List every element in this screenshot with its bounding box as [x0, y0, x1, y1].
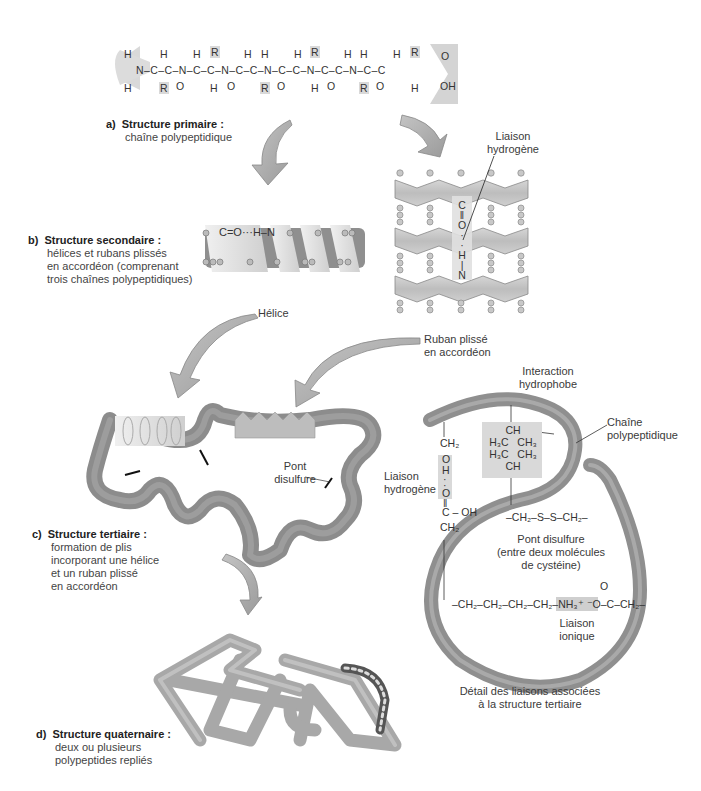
residue-3-carbonyl: O	[277, 80, 285, 92]
section-c-desc: formation de plis incorporant une hélice…	[32, 541, 159, 593]
residue-5-bottom: R	[359, 82, 369, 94]
section-a-title: Structure primaire :	[122, 118, 224, 131]
sheet-bond-n: N	[454, 270, 470, 280]
residue-3-amide-h: H	[294, 48, 302, 60]
residue-1-carbonyl: O	[176, 80, 184, 92]
arrow-sheet-to-tertiary	[295, 338, 420, 407]
residue-5-amide-h: H	[393, 48, 401, 60]
section-b-letter: b)	[28, 234, 38, 247]
ionic-formula: –CH₂–CH₂–CH₂–CH₂–NH₃⁺ ⁻O–C–CH₂–	[452, 598, 645, 610]
polypeptide-chain-label: Chaîne polypeptidique	[607, 416, 678, 442]
detail-caption: Détail des liaisons associées à la struc…	[455, 685, 605, 711]
residue-1-amide-h: H	[193, 48, 201, 60]
residue-2-top: R	[210, 46, 220, 58]
hbond-ch2-bottom: CH₂	[440, 522, 477, 533]
section-a-letter: a)	[106, 118, 116, 131]
amino-terminus: H	[124, 48, 132, 60]
section-d-title: Structure quaternaire :	[52, 728, 171, 741]
section-d-desc: deux ou plusieurs polypeptides repliés	[36, 741, 171, 767]
residue-6-top: R	[410, 46, 420, 58]
hydrophobic-group: CH H₃C CH₃ H₃C CH₃ CH	[484, 424, 542, 472]
sheet-arrow-label: Ruban plissé en accordéon	[424, 333, 491, 359]
hydrophobic-ch-bottom: CH	[484, 460, 542, 472]
ionic-formula-left: –CH₂–CH₂–CH₂–CH₂–	[452, 598, 558, 610]
disulfide-bridge-label: Pont disulfure	[270, 460, 320, 486]
detail-hbond-chain: CH₂ O H · · O ‖ C – OH CH₂	[440, 438, 477, 533]
residue-1-top: H	[160, 48, 168, 60]
helix-hbond-formula: C=O···H–N	[219, 226, 275, 238]
residue-3-top: H	[261, 48, 269, 60]
ionic-formula-mid: NH₃⁺ ⁻O	[558, 598, 601, 610]
hbond-ch2-top: CH₂	[440, 438, 477, 449]
ionic-bond-label: Liaison ionique	[552, 617, 602, 643]
section-c-letter: c)	[32, 528, 42, 541]
sheet-hbond-formula: C ‖ O · · H | N	[454, 200, 470, 280]
section-a-primary: a)Structure primaire : chaîne polypeptid…	[106, 118, 232, 144]
detail-hbond-label: Liaison hydrogène	[384, 470, 436, 496]
section-c-tertiary: c)Structure tertiaire : formation de pli…	[32, 528, 159, 593]
residue-5-carbonyl: O	[376, 80, 384, 92]
amino-h-bottom: H	[124, 82, 132, 94]
residue-2-amide-h: H	[244, 48, 252, 60]
arrow-primary-to-sheet	[400, 115, 447, 157]
residue-4-bottom: H	[311, 82, 319, 94]
residue-2-bottom: H	[210, 82, 218, 94]
disulfide-caption: Pont disulfure (entre deux molécules de …	[496, 533, 606, 572]
sheet-hbond-label: Liaison hydrogène	[478, 130, 548, 156]
hydrophobic-methyls-bottom: H₃C CH₃	[484, 448, 542, 460]
amino-h-top: H	[124, 48, 132, 60]
ionic-formula-right: –C–CH₂–	[601, 598, 645, 610]
section-b-secondary: b)Structure secondaire : hélices et ruba…	[28, 234, 193, 286]
primary-backbone: N–C–C–N–C–C–N–C–C–N–C–C–N–C–C–N–C–C	[136, 64, 386, 76]
hydrophobic-ch-top: CH	[484, 424, 542, 436]
section-d-quaternary: d)Structure quaternaire : deux ou plusie…	[36, 728, 171, 767]
residue-4-carbonyl: O	[327, 80, 335, 92]
residue-6-bottom: H	[411, 82, 419, 94]
arrow-primary-to-helix	[252, 120, 292, 185]
arrow-helix-to-tertiary	[170, 314, 258, 398]
carboxyl-o: O	[441, 50, 449, 62]
residue-5-top: H	[360, 48, 368, 60]
quaternary-structure-graphic	[160, 640, 395, 745]
residue-4-amide-h: H	[344, 48, 352, 60]
disulfide-formula: –CH₂–S–S–CH₂–	[506, 511, 588, 523]
ionic-carbonyl-o: O	[600, 580, 608, 592]
residue-1-bottom: R	[159, 82, 169, 94]
hydrophobic-interaction-label: Interaction hydrophobe	[518, 365, 578, 391]
section-b-desc: hélices et rubans plissés en accordéon (…	[28, 247, 193, 286]
section-b-title: Structure secondaire :	[44, 234, 161, 247]
residue-4-top: R	[310, 46, 320, 58]
section-a-desc: chaîne polypeptidique	[106, 131, 232, 144]
hbond-c-oh: C – OH	[440, 507, 477, 518]
helix-arrow-label: Hélice	[258, 307, 289, 320]
residue-2-carbonyl: O	[227, 80, 235, 92]
residue-3-bottom: R	[260, 82, 270, 94]
section-d-letter: d)	[36, 728, 46, 741]
hydrophobic-methyls-top: H₃C CH₃	[484, 436, 542, 448]
carboxyl-oh: OH	[440, 80, 456, 92]
section-c-title: Structure tertiaire :	[48, 528, 147, 541]
